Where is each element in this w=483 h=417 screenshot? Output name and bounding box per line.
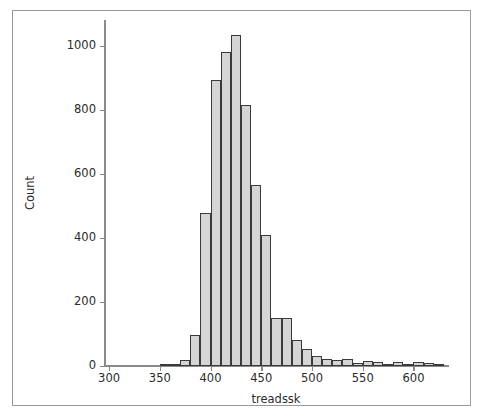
histogram-bar [363, 361, 373, 366]
x-tick-label: 600 [403, 373, 425, 385]
x-tick-mark [312, 366, 313, 371]
y-tick-mark [100, 46, 104, 47]
y-tick-label: 200 [74, 296, 96, 308]
histogram-bar [373, 362, 383, 366]
histogram-bar [292, 340, 302, 366]
y-axis-tick-labels: 02004006008001000 [40, 0, 96, 417]
histogram-bar [302, 349, 312, 366]
x-tick-label: 400 [200, 373, 222, 385]
histogram-bar [180, 360, 190, 366]
x-tick-mark [109, 366, 110, 371]
y-tick-mark [100, 174, 104, 175]
x-axis-title: treadssk [251, 392, 300, 406]
y-tick-mark [100, 110, 104, 111]
histogram-bar [160, 364, 170, 366]
histogram-bar [261, 235, 271, 366]
histogram-bar [241, 105, 251, 366]
y-tick-label: 400 [74, 232, 96, 244]
histogram-bar [282, 318, 292, 366]
histogram-bar [353, 363, 363, 366]
histogram-bar [434, 364, 444, 366]
x-tick-mark [211, 366, 212, 371]
histogram-bars [104, 20, 449, 366]
y-tick-mark [100, 302, 104, 303]
x-tick-label: 350 [149, 373, 171, 385]
histogram-bar [312, 356, 322, 366]
histogram-bar [251, 185, 261, 366]
x-tick-label: 300 [98, 373, 120, 385]
histogram-bar [424, 363, 434, 366]
x-tick-mark [363, 366, 364, 371]
histogram-bar [170, 364, 180, 366]
histogram-figure: 02004006008001000 300350400450500550600 … [0, 0, 483, 417]
histogram-bar [393, 362, 403, 366]
y-tick-label: 0 [89, 360, 96, 372]
histogram-bar [221, 52, 231, 366]
y-tick-mark [100, 366, 104, 367]
x-tick-label: 450 [250, 373, 272, 385]
y-axis-title: Count [23, 176, 37, 210]
y-tick-mark [100, 238, 104, 239]
histogram-bar [413, 362, 423, 366]
histogram-bar [190, 335, 200, 366]
histogram-bar [403, 364, 413, 366]
histogram-bar [332, 360, 342, 366]
histogram-bar [322, 359, 332, 366]
y-tick-label: 800 [74, 104, 96, 116]
histogram-bar [271, 318, 281, 366]
y-tick-label: 1000 [67, 40, 96, 52]
y-tick-label: 600 [74, 168, 96, 180]
histogram-bar [383, 364, 393, 366]
x-tick-label: 550 [352, 373, 374, 385]
x-tick-mark [160, 366, 161, 371]
histogram-bar [200, 213, 210, 366]
x-tick-label: 500 [301, 373, 323, 385]
histogram-bar [342, 359, 352, 366]
x-tick-mark [261, 366, 262, 371]
histogram-bar [211, 80, 221, 366]
histogram-bar [231, 35, 241, 366]
x-tick-mark [413, 366, 414, 371]
